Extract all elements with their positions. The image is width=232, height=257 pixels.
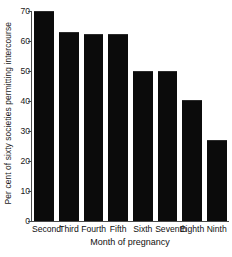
x-axis-tick-label: Fifth bbox=[106, 223, 131, 235]
plot-area bbox=[31, 11, 229, 222]
x-axis-tick-label: Third bbox=[57, 223, 82, 235]
x-axis-tick-label: Sixth bbox=[131, 223, 156, 235]
x-axis-tick-label: Eighth bbox=[180, 223, 205, 235]
bar bbox=[133, 71, 153, 221]
x-axis-title: Month of pregnancy bbox=[31, 237, 229, 247]
y-axis-title-text: Per cent of sixty societies permitting i… bbox=[4, 22, 12, 204]
bar bbox=[182, 100, 202, 222]
bar bbox=[108, 34, 128, 222]
bar-chart: Per cent of sixty societies permitting i… bbox=[0, 0, 232, 257]
x-axis-tick-label: Ninth bbox=[204, 223, 229, 235]
x-axis-tick-labels: SecondThirdFourthFifthSixthSeventhEighth… bbox=[31, 223, 230, 236]
x-axis-tick-label: Second bbox=[32, 223, 57, 235]
bar bbox=[158, 71, 178, 221]
x-axis-tick-label: Seventh bbox=[155, 223, 180, 235]
x-axis-tick-label: Fourth bbox=[81, 223, 106, 235]
y-axis-tick-labels: 010203040506070 bbox=[14, 0, 31, 230]
bar bbox=[34, 11, 54, 221]
bar bbox=[59, 32, 79, 221]
bar bbox=[207, 140, 227, 221]
bar bbox=[84, 34, 104, 222]
bar-series bbox=[32, 11, 229, 222]
